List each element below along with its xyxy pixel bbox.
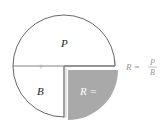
label-p: P (60, 37, 68, 49)
formula: R = P B (125, 58, 157, 77)
formula-lhs: R = (125, 62, 140, 72)
pbr-circle-diagram: + P B R = R = P B (0, 0, 164, 129)
label-b: B (37, 85, 44, 97)
label-r-equals: R = (79, 85, 97, 97)
formula-denominator: B (150, 68, 155, 77)
center-mark: + (38, 63, 44, 71)
formula-numerator: P (149, 58, 155, 67)
